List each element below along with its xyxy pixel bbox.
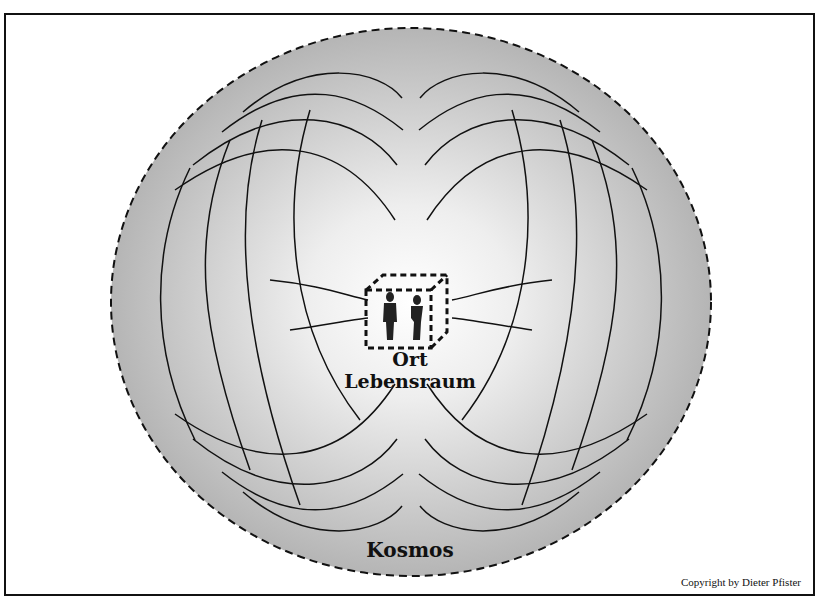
kosmos-boundary <box>111 28 711 576</box>
label-lebensraum: Lebensraum <box>320 370 500 392</box>
label-ort: Ort <box>340 348 480 370</box>
copyright-notice: Copyright by Dieter Pfister <box>681 576 801 588</box>
label-kosmos: Kosmos <box>340 538 480 562</box>
cosmos-diagram <box>0 0 821 606</box>
